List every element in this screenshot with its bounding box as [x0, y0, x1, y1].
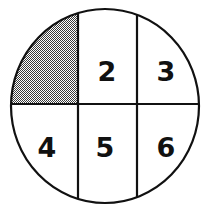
region-label-5: 5	[90, 134, 120, 161]
region-label-4: 4	[32, 134, 62, 161]
region-label-6: 6	[151, 134, 181, 161]
circle-diagram: 2 3 4 5 6	[0, 0, 212, 219]
circle-outline	[11, 9, 199, 203]
circle-diagram-svg	[0, 0, 212, 219]
region-label-3: 3	[151, 58, 181, 85]
region-label-2: 2	[92, 58, 122, 85]
